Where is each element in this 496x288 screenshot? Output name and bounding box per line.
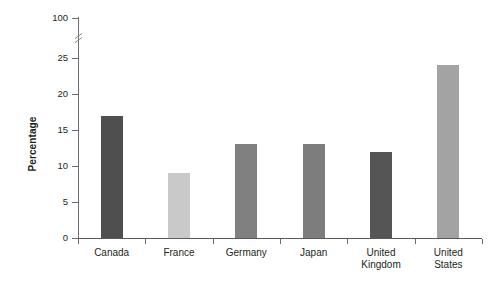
y-axis-tick (72, 58, 78, 59)
x-axis-tick (280, 239, 281, 244)
x-axis-tick (482, 239, 483, 244)
category-label-line1: France (145, 247, 212, 259)
category-label-line2: States (415, 259, 482, 271)
x-axis-tick (347, 239, 348, 244)
x-axis-category-label: France (145, 247, 212, 259)
bar-united-kingdom (370, 152, 392, 238)
bar-united-states (437, 65, 459, 238)
bar-japan (303, 144, 325, 238)
bar-germany (235, 144, 257, 238)
x-axis-tick (213, 239, 214, 244)
x-axis-category-label: Japan (280, 247, 347, 259)
y-axis-tick (72, 130, 78, 131)
bar-france (168, 173, 190, 238)
x-axis-category-label: UnitedStates (415, 247, 482, 270)
category-label-line2: Kingdom (347, 259, 414, 271)
x-axis-category-label: Canada (78, 247, 145, 259)
bar-chart: Percentage 0510152025100 CanadaFranceGer… (0, 0, 496, 288)
y-axis-tick (72, 202, 78, 203)
category-label-line1: United (415, 247, 482, 259)
y-axis-tick (72, 18, 78, 19)
x-axis-tick (415, 239, 416, 244)
x-axis-category-label: Germany (213, 247, 280, 259)
category-label-line1: United (347, 247, 414, 259)
x-axis-tick (145, 239, 146, 244)
y-axis-tick (72, 94, 78, 95)
category-label-line1: Germany (213, 247, 280, 259)
bar-canada (101, 116, 123, 238)
bars-container (0, 0, 496, 239)
category-label-line1: Canada (78, 247, 145, 259)
y-axis-tick (72, 166, 78, 167)
x-axis-category-label: UnitedKingdom (347, 247, 414, 270)
x-axis-tick (78, 239, 79, 244)
category-label-line1: Japan (280, 247, 347, 259)
